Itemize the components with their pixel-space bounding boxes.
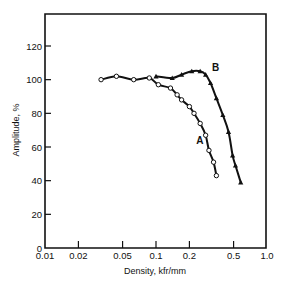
circle-marker-icon xyxy=(192,111,196,115)
circle-marker-icon xyxy=(147,76,151,80)
series-a: A xyxy=(99,74,219,178)
curve-a-line xyxy=(101,76,216,175)
y-tick-label: 40 xyxy=(31,175,42,186)
plot-frame xyxy=(45,14,266,248)
y-tick-label: 60 xyxy=(31,142,42,153)
y-tick-label: 80 xyxy=(31,108,42,119)
circle-marker-icon xyxy=(203,133,207,137)
triangle-marker-icon xyxy=(214,96,219,101)
circle-marker-icon xyxy=(114,74,118,78)
x-axis-ticks: 0.010.020.050.10.20.51.0 xyxy=(36,241,274,261)
axes-box xyxy=(45,14,266,248)
x-tick-label: 0.02 xyxy=(69,250,88,261)
y-axis-ticks: 020406080100120 xyxy=(26,41,51,254)
curve-label-a: A xyxy=(196,135,203,146)
y-axis-label: Amplitude, % xyxy=(11,103,21,156)
x-tick-label: 0.2 xyxy=(183,250,196,261)
circle-marker-icon xyxy=(168,86,172,90)
data-curves: AB xyxy=(99,62,243,184)
x-tick-label: 1.0 xyxy=(260,250,273,261)
circle-marker-icon xyxy=(132,77,136,81)
circle-marker-icon xyxy=(99,77,103,81)
x-tick-label: 0.01 xyxy=(36,250,55,261)
x-tick-label: 0.05 xyxy=(113,250,132,261)
circle-marker-icon xyxy=(187,104,191,108)
circle-marker-icon xyxy=(214,173,218,177)
x-tick-label: 0.5 xyxy=(227,250,240,261)
x-tick-label: 0.1 xyxy=(149,250,162,261)
triangle-marker-icon xyxy=(226,129,231,134)
triangle-marker-icon xyxy=(238,180,243,185)
amplitude-density-chart: 020406080100120 0.010.020.050.10.20.51.0… xyxy=(0,0,284,285)
curve-label-b: B xyxy=(212,62,219,73)
triangle-marker-icon xyxy=(230,153,235,158)
y-tick-label: 120 xyxy=(26,41,42,52)
circle-marker-icon xyxy=(156,83,160,87)
triangle-marker-icon xyxy=(220,112,225,117)
y-tick-label: 100 xyxy=(26,74,42,85)
circle-marker-icon xyxy=(175,93,179,97)
triangle-marker-icon xyxy=(233,163,238,168)
x-axis-label: Density, kfr/mm xyxy=(124,266,186,276)
circle-marker-icon xyxy=(207,148,211,152)
circle-marker-icon xyxy=(211,160,215,164)
circle-marker-icon xyxy=(198,121,202,125)
y-tick-label: 20 xyxy=(31,209,42,220)
circle-marker-icon xyxy=(179,98,183,102)
